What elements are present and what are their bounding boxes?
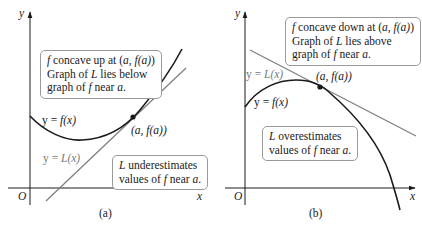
panel-b-concavity-line3: graph of f near a. bbox=[292, 48, 414, 62]
panel-b-y-axis-label: y bbox=[235, 7, 240, 20]
panel-b-x-axis-label: x bbox=[410, 190, 415, 203]
panel-b-estimate-box: L overestimates values of f near a. bbox=[262, 126, 358, 161]
panel-b-concavity-line1: f concave down at (a, f(a)) bbox=[292, 21, 414, 35]
panel-b-estimate-line1: L overestimates bbox=[269, 130, 351, 144]
panel-b-estimate-line2: values of f near a. bbox=[269, 144, 351, 158]
panel-a-estimate-line2: values of f near a. bbox=[119, 173, 201, 187]
panel-b-concavity-line2: Graph of L lies above bbox=[292, 35, 414, 49]
panel-b-point-label: (a, f(a)) bbox=[316, 70, 352, 83]
panel-b-caption: (b) bbox=[309, 207, 322, 219]
panel-a-concavity-line1: f concave up at (a, f(a)) bbox=[47, 54, 155, 68]
panel-a-concavity-line3: graph of f near a. bbox=[47, 81, 155, 95]
panel-a-concavity-box: f concave up at (a, f(a)) Graph of L lie… bbox=[40, 50, 162, 99]
panel-a-estimate-box: L underestimates values of f near a. bbox=[112, 155, 208, 190]
panel-b-concavity-box: f concave down at (a, f(a)) Graph of L l… bbox=[285, 17, 421, 66]
panel-a-caption: (a) bbox=[99, 207, 112, 219]
panel-a-point-label: (a, f(a)) bbox=[131, 124, 167, 137]
panel-b-curve-label: y = f(x) bbox=[254, 96, 288, 109]
panel-b-tangent-point bbox=[317, 84, 322, 89]
panel-b-origin-label: O bbox=[234, 190, 242, 203]
panel-b-line-label: y = L(x) bbox=[246, 68, 283, 81]
panel-a-line-label: y = L(x) bbox=[43, 152, 80, 165]
panel-a-tangent-point bbox=[130, 114, 135, 119]
panel-a-curve-label: y = f(x) bbox=[42, 114, 76, 127]
panel-a-x-axis-label: x bbox=[197, 190, 202, 203]
panel-a-origin-label: O bbox=[18, 190, 26, 203]
panel-a-concavity-line2: Graph of L lies below bbox=[47, 68, 155, 82]
panel-a-y-axis-label: y bbox=[19, 7, 24, 20]
panel-a-estimate-line1: L underestimates bbox=[119, 159, 201, 173]
